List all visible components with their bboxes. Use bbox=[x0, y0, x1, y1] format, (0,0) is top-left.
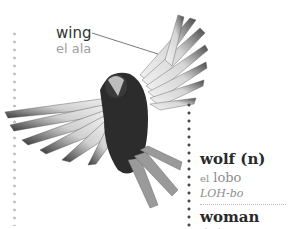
leader-line bbox=[0, 0, 288, 229]
entry-translation: el lobo bbox=[200, 170, 241, 185]
entry-word: woman (n) bbox=[200, 208, 288, 229]
entry-translation-word: lobo bbox=[213, 170, 241, 185]
annotation-term-english: wing bbox=[56, 24, 91, 42]
annotation-term-spanish: el ala bbox=[56, 41, 91, 56]
entry-article: el bbox=[200, 173, 209, 184]
entry-pronunciation: LOH-bo bbox=[200, 187, 243, 200]
entry-word: wolf (n) bbox=[200, 150, 265, 168]
entry-divider bbox=[200, 204, 286, 205]
dotted-guide-right bbox=[187, 101, 191, 229]
